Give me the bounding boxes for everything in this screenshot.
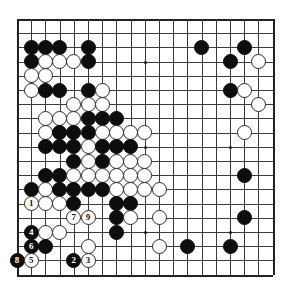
stone-white[interactable]	[38, 196, 53, 211]
stone-white[interactable]	[66, 111, 81, 126]
stone-black[interactable]	[52, 83, 67, 98]
stone-white[interactable]	[109, 125, 124, 140]
stone-black-numbered[interactable]: 4	[24, 225, 39, 240]
stone-black-numbered[interactable]: 6	[24, 239, 39, 254]
stone-white-numbered[interactable]: 3	[81, 253, 96, 268]
stone-white[interactable]	[152, 210, 167, 225]
stone-white[interactable]	[251, 54, 266, 69]
stone-black[interactable]	[109, 196, 124, 211]
stone-black[interactable]	[24, 40, 39, 55]
stone-white-numbered[interactable]: 1	[24, 196, 39, 211]
stone-white-numbered[interactable]: 9	[81, 210, 96, 225]
stone-black[interactable]	[38, 239, 53, 254]
stone-black[interactable]	[38, 168, 53, 183]
stone-white[interactable]	[81, 139, 96, 154]
stone-white[interactable]	[137, 125, 152, 140]
stone-black[interactable]	[109, 225, 124, 240]
stone-white[interactable]	[137, 154, 152, 169]
stone-black[interactable]	[109, 210, 124, 225]
stone-black[interactable]	[237, 210, 252, 225]
stone-white[interactable]	[52, 225, 67, 240]
stone-black[interactable]	[223, 239, 238, 254]
stone-black[interactable]	[223, 54, 238, 69]
stone-black[interactable]	[95, 111, 110, 126]
stone-white[interactable]	[237, 125, 252, 140]
stone-black[interactable]	[52, 182, 67, 197]
stone-white[interactable]	[38, 54, 53, 69]
stone-white[interactable]	[95, 83, 110, 98]
stone-white[interactable]	[52, 111, 67, 126]
stone-white[interactable]	[38, 182, 53, 197]
stone-black[interactable]	[24, 182, 39, 197]
stone-white[interactable]	[52, 54, 67, 69]
stone-white[interactable]	[137, 168, 152, 183]
stone-white[interactable]	[38, 125, 53, 140]
stone-black[interactable]	[237, 40, 252, 55]
stone-white[interactable]	[109, 154, 124, 169]
stone-black[interactable]	[38, 139, 53, 154]
stone-white[interactable]	[66, 168, 81, 183]
stone-white[interactable]	[95, 97, 110, 112]
stone-white-numbered[interactable]: 7	[66, 210, 81, 225]
stone-white[interactable]	[81, 239, 96, 254]
stone-black[interactable]	[81, 83, 96, 98]
stone-black[interactable]	[109, 139, 124, 154]
stone-black[interactable]	[38, 40, 53, 55]
stone-black[interactable]	[38, 83, 53, 98]
stone-black[interactable]	[81, 54, 96, 69]
stone-black[interactable]	[180, 239, 195, 254]
stone-white[interactable]	[123, 125, 138, 140]
stone-black[interactable]	[95, 154, 110, 169]
stone-white[interactable]	[66, 97, 81, 112]
stone-white[interactable]	[24, 83, 39, 98]
stone-black[interactable]	[66, 125, 81, 140]
stone-white[interactable]	[109, 182, 124, 197]
stone-white[interactable]	[24, 68, 39, 83]
stone-black-numbered[interactable]: 2	[66, 253, 81, 268]
stone-white[interactable]	[123, 154, 138, 169]
stone-black[interactable]	[237, 168, 252, 183]
stone-white[interactable]	[152, 182, 167, 197]
stone-black[interactable]	[194, 40, 209, 55]
stone-black[interactable]	[52, 125, 67, 140]
stone-black[interactable]	[66, 154, 81, 169]
stone-white-numbered[interactable]: 5	[24, 253, 39, 268]
stone-black[interactable]	[95, 139, 110, 154]
stone-black[interactable]	[123, 196, 138, 211]
stone-white[interactable]	[38, 68, 53, 83]
stone-white[interactable]	[66, 54, 81, 69]
stone-black[interactable]	[81, 111, 96, 126]
stone-white[interactable]	[123, 182, 138, 197]
stone-white[interactable]	[251, 97, 266, 112]
stone-white[interactable]	[95, 168, 110, 183]
stone-white[interactable]	[95, 125, 110, 140]
stone-white[interactable]	[123, 168, 138, 183]
stone-white[interactable]	[38, 225, 53, 240]
stone-black[interactable]	[52, 168, 67, 183]
stone-black[interactable]	[52, 139, 67, 154]
stone-black[interactable]	[95, 182, 110, 197]
stone-black[interactable]	[123, 139, 138, 154]
stone-white[interactable]	[38, 111, 53, 126]
stone-white[interactable]	[109, 168, 124, 183]
stone-black[interactable]	[66, 139, 81, 154]
stone-white[interactable]	[123, 210, 138, 225]
stone-white[interactable]	[81, 154, 96, 169]
go-board[interactable]: A179468523	[10, 12, 280, 286]
stone-black[interactable]	[109, 111, 124, 126]
stone-black[interactable]	[81, 125, 96, 140]
stone-white[interactable]	[81, 168, 96, 183]
stone-white[interactable]	[152, 239, 167, 254]
stone-black[interactable]	[66, 196, 81, 211]
stone-white[interactable]	[52, 196, 67, 211]
stone-black[interactable]	[52, 40, 67, 55]
stone-black-numbered[interactable]: 8	[10, 253, 25, 268]
stone-black[interactable]	[66, 182, 81, 197]
stone-black[interactable]	[24, 54, 39, 69]
stone-black[interactable]	[81, 182, 96, 197]
stone-black[interactable]	[81, 40, 96, 55]
stone-white[interactable]	[237, 83, 252, 98]
stone-black[interactable]	[223, 83, 238, 98]
stone-white[interactable]	[81, 97, 96, 112]
stone-white[interactable]	[137, 182, 152, 197]
